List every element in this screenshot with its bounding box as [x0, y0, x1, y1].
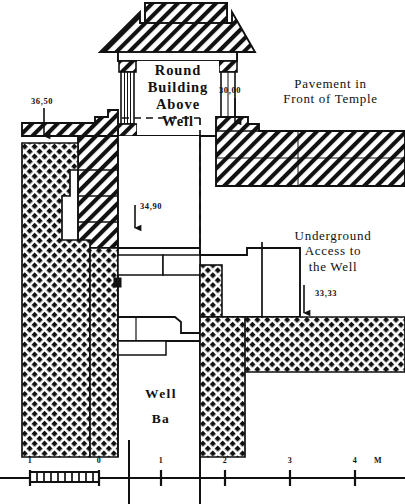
scale-unit-label: M: [368, 456, 388, 465]
ground-crust-left: [22, 110, 118, 136]
left-ground-group: [22, 110, 118, 457]
well-label-line2: Ba: [126, 411, 196, 427]
lantern-block: [145, 3, 227, 23]
left-column-capital: [119, 61, 136, 72]
scale-tick-label-2: 1: [151, 456, 171, 465]
elevation-33-33: 33,33: [315, 288, 337, 298]
access-step: [163, 255, 200, 275]
well-label-line1: Well: [126, 386, 196, 402]
scale-tick-label-3: 2: [215, 456, 235, 465]
elevation-36-50: 36,50: [31, 96, 53, 106]
well-head-masonry-left: [78, 136, 118, 248]
access-pier: [200, 265, 222, 317]
cornice: [118, 52, 237, 61]
well-shaft-void: [118, 136, 200, 457]
pavement-in-front-of-temple: [216, 117, 405, 186]
elevation-30-00: 30,00: [219, 85, 241, 95]
well-cross-section-figure: Round Building Above Well Pavement in Fr…: [0, 0, 405, 504]
right-column-capital: [219, 61, 237, 72]
elevation-34-90: 34,90: [140, 201, 162, 211]
pavement-label: Pavement in Front of Temple: [258, 76, 403, 107]
scale-tick-label-4: 3: [280, 456, 300, 465]
well-shaft-group: [118, 136, 200, 457]
left-column-base: [118, 124, 137, 136]
scale-tick-label-1: 0: [89, 456, 109, 465]
round-building-label: Round Building Above Well: [137, 62, 219, 130]
corbel-ledge: [114, 278, 121, 287]
pavement-right-group: [216, 117, 405, 186]
descending-step-lower: [118, 341, 166, 355]
scale-tick-label-0: 1: [20, 456, 40, 465]
access-step: [118, 255, 163, 275]
right-ground-group: [200, 317, 405, 457]
well-lining-right: [200, 317, 245, 457]
scale-tick-label-5: 4: [345, 456, 365, 465]
underground-access-label: Underground Access to the Well: [262, 228, 404, 274]
